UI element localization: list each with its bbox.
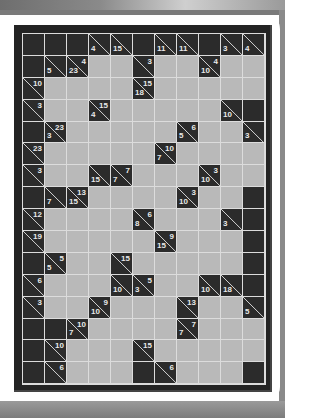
entry-cell[interactable] xyxy=(111,362,133,384)
entry-cell[interactable] xyxy=(45,78,67,100)
entry-cell[interactable] xyxy=(221,253,243,275)
entry-cell[interactable] xyxy=(155,122,177,144)
entry-cell[interactable] xyxy=(155,340,177,362)
entry-cell[interactable] xyxy=(177,209,199,231)
entry-cell[interactable] xyxy=(45,165,67,187)
entry-cell[interactable] xyxy=(67,297,89,319)
entry-cell[interactable] xyxy=(111,209,133,231)
entry-cell[interactable] xyxy=(199,187,221,209)
entry-cell[interactable] xyxy=(133,297,155,319)
entry-cell[interactable] xyxy=(67,100,89,122)
entry-cell[interactable] xyxy=(111,56,133,78)
entry-cell[interactable] xyxy=(155,319,177,341)
entry-cell[interactable] xyxy=(89,275,111,297)
entry-cell[interactable] xyxy=(177,253,199,275)
entry-cell[interactable] xyxy=(221,122,243,144)
entry-cell[interactable] xyxy=(221,319,243,341)
entry-cell[interactable] xyxy=(221,143,243,165)
entry-cell[interactable] xyxy=(111,297,133,319)
entry-cell[interactable] xyxy=(155,100,177,122)
entry-cell[interactable] xyxy=(221,362,243,384)
entry-cell[interactable] xyxy=(67,122,89,144)
entry-cell[interactable] xyxy=(45,231,67,253)
entry-cell[interactable] xyxy=(243,78,265,100)
entry-cell[interactable] xyxy=(133,143,155,165)
entry-cell[interactable] xyxy=(133,100,155,122)
entry-cell[interactable] xyxy=(67,362,89,384)
entry-cell[interactable] xyxy=(89,209,111,231)
entry-cell[interactable] xyxy=(199,340,221,362)
entry-cell[interactable] xyxy=(111,231,133,253)
entry-cell[interactable] xyxy=(89,187,111,209)
entry-cell[interactable] xyxy=(89,122,111,144)
entry-cell[interactable] xyxy=(155,187,177,209)
entry-cell[interactable] xyxy=(67,340,89,362)
entry-cell[interactable] xyxy=(89,319,111,341)
entry-cell[interactable] xyxy=(199,319,221,341)
entry-cell[interactable] xyxy=(45,275,67,297)
entry-cell[interactable] xyxy=(155,297,177,319)
entry-cell[interactable] xyxy=(243,340,265,362)
entry-cell[interactable] xyxy=(133,187,155,209)
entry-cell[interactable] xyxy=(155,275,177,297)
entry-cell[interactable] xyxy=(221,297,243,319)
entry-cell[interactable] xyxy=(177,231,199,253)
entry-cell[interactable] xyxy=(221,56,243,78)
entry-cell[interactable] xyxy=(177,78,199,100)
entry-cell[interactable] xyxy=(111,340,133,362)
entry-cell[interactable] xyxy=(199,253,221,275)
entry-cell[interactable] xyxy=(89,362,111,384)
entry-cell[interactable] xyxy=(133,165,155,187)
entry-cell[interactable] xyxy=(133,253,155,275)
entry-cell[interactable] xyxy=(133,319,155,341)
entry-cell[interactable] xyxy=(111,122,133,144)
entry-cell[interactable] xyxy=(89,78,111,100)
entry-cell[interactable] xyxy=(133,231,155,253)
entry-cell[interactable] xyxy=(67,143,89,165)
entry-cell[interactable] xyxy=(67,275,89,297)
entry-cell[interactable] xyxy=(177,275,199,297)
entry-cell[interactable] xyxy=(111,78,133,100)
entry-cell[interactable] xyxy=(243,143,265,165)
entry-cell[interactable] xyxy=(67,78,89,100)
entry-cell[interactable] xyxy=(177,165,199,187)
entry-cell[interactable] xyxy=(89,143,111,165)
entry-cell[interactable] xyxy=(155,56,177,78)
entry-cell[interactable] xyxy=(221,78,243,100)
entry-cell[interactable] xyxy=(155,209,177,231)
entry-cell[interactable] xyxy=(243,319,265,341)
entry-cell[interactable] xyxy=(155,253,177,275)
entry-cell[interactable] xyxy=(111,319,133,341)
entry-cell[interactable] xyxy=(89,340,111,362)
entry-cell[interactable] xyxy=(199,78,221,100)
entry-cell[interactable] xyxy=(243,56,265,78)
entry-cell[interactable] xyxy=(111,187,133,209)
entry-cell[interactable] xyxy=(221,231,243,253)
entry-cell[interactable] xyxy=(177,56,199,78)
entry-cell[interactable] xyxy=(199,297,221,319)
entry-cell[interactable] xyxy=(199,362,221,384)
entry-cell[interactable] xyxy=(177,340,199,362)
entry-cell[interactable] xyxy=(111,143,133,165)
entry-cell[interactable] xyxy=(199,143,221,165)
entry-cell[interactable] xyxy=(177,100,199,122)
entry-cell[interactable] xyxy=(89,253,111,275)
entry-cell[interactable] xyxy=(221,187,243,209)
entry-cell[interactable] xyxy=(111,100,133,122)
entry-cell[interactable] xyxy=(155,165,177,187)
entry-cell[interactable] xyxy=(89,56,111,78)
entry-cell[interactable] xyxy=(199,100,221,122)
entry-cell[interactable] xyxy=(221,340,243,362)
entry-cell[interactable] xyxy=(45,297,67,319)
entry-cell[interactable] xyxy=(89,231,111,253)
entry-cell[interactable] xyxy=(67,209,89,231)
entry-cell[interactable] xyxy=(243,165,265,187)
entry-cell[interactable] xyxy=(45,209,67,231)
entry-cell[interactable] xyxy=(199,122,221,144)
entry-cell[interactable] xyxy=(199,231,221,253)
entry-cell[interactable] xyxy=(177,362,199,384)
entry-cell[interactable] xyxy=(133,122,155,144)
entry-cell[interactable] xyxy=(155,78,177,100)
entry-cell[interactable] xyxy=(199,209,221,231)
entry-cell[interactable] xyxy=(45,100,67,122)
